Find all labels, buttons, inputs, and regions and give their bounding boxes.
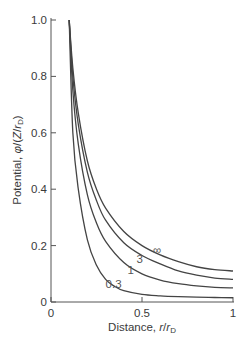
y-tick-label: 0.8: [31, 70, 47, 82]
x-ticks: 00.51: [48, 297, 236, 319]
y-tick-label: 1.0: [31, 14, 47, 26]
y-tick-label: 0.4: [31, 183, 48, 195]
curve-0.3: [69, 20, 233, 298]
x-tick-label: 0.5: [134, 307, 150, 319]
y-axis-title: Potential, φ/(Z/rD): [11, 115, 25, 205]
curve-label: 3: [137, 253, 143, 265]
x-axis-title: Distance, r/rD: [108, 321, 176, 335]
curves: [69, 20, 233, 298]
y-tick-label: 0.2: [31, 240, 47, 252]
curve-label: ∞: [153, 244, 161, 256]
x-tick-label: 1: [230, 307, 236, 319]
curve-3: [69, 20, 233, 279]
curve-1: [69, 20, 233, 288]
y-ticks: 00.20.40.60.81.0: [31, 14, 56, 308]
y-tick-label: 0: [41, 296, 47, 308]
curve-∞: [69, 20, 233, 271]
x-tick-label: 0: [48, 307, 54, 319]
potential-chart: 00.20.40.60.81.0 00.51 ∞310.3 Distance, …: [0, 0, 247, 338]
curve-label: 0.3: [106, 278, 122, 290]
y-tick-label: 0.6: [31, 127, 47, 139]
curve-label: 1: [127, 264, 133, 276]
